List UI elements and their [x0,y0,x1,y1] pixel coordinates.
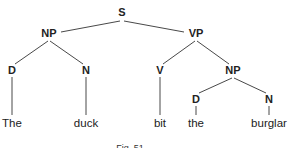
figure-caption: Fig. 51 [116,143,144,148]
word-w3: bit [154,117,167,129]
node-np2: NP [225,64,240,76]
node-s: S [118,6,125,18]
word-w4: the [188,117,204,129]
edge-s-vp [124,21,184,32]
edge-vp-v [163,41,195,64]
edge-np2-d2 [199,78,232,93]
word-w5: burglar [251,117,287,129]
edge-np1-d1 [15,41,48,64]
node-n2: N [265,93,273,105]
node-d2: D [192,93,200,105]
node-vp: VP [189,27,204,39]
word-w1: The [2,117,22,129]
syntax-tree-diagram: SNPVPDNVNPDNTheduckbittheburglar Fig. 51 [0,0,292,148]
edge-s-np1 [61,21,120,32]
node-d1: D [8,64,16,76]
node-np1: NP [41,27,56,39]
node-v: V [156,64,164,76]
edge-np1-n1 [50,41,83,64]
edge-np2-n2 [234,78,266,93]
word-w2: duck [74,117,99,129]
node-n1: N [82,64,90,76]
edge-vp-np2 [197,41,229,64]
